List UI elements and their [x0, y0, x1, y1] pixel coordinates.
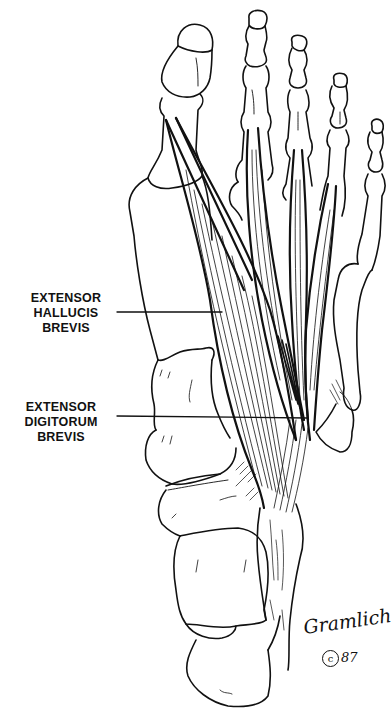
tarsal-bones — [145, 348, 280, 707]
toe-bones — [129, 10, 385, 360]
label-line-2: HALLUCIS BREVIS — [10, 306, 122, 336]
copyright-icon: c — [322, 650, 339, 667]
year-text: 87 — [341, 650, 358, 665]
label-line-1: EXTENSOR — [10, 291, 122, 306]
muscle-origin-stem — [257, 504, 303, 670]
label-extensor-digitorum-brevis: EXTENSOR DIGITORUM BREVIS — [0, 400, 122, 445]
label-extensor-hallucis-brevis: EXTENSOR HALLUCIS BREVIS — [10, 291, 122, 336]
label-line-1: EXTENSOR — [0, 400, 122, 415]
leader-line-edb — [117, 416, 308, 418]
label-line-2: DIGITORUM BREVIS — [0, 415, 122, 445]
copyright-year: c87 — [322, 650, 358, 667]
